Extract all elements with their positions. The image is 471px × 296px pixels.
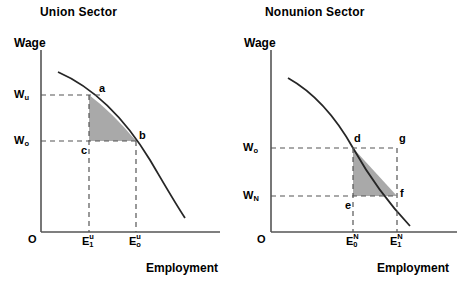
figure-canvas: Union Sector Wage Employment O Wu Wo Eu1… xyxy=(0,0,471,296)
panel-nonunion-sector: Nonunion Sector Wage Employment O Wo WN … xyxy=(235,0,471,296)
shaded-triangle-def xyxy=(353,148,397,196)
panel-union-sector: Union Sector Wage Employment O Wu Wo Eu1… xyxy=(0,0,236,296)
union-plot-svg xyxy=(0,0,236,296)
labor-demand-curve-union xyxy=(58,72,185,218)
shaded-region-union xyxy=(89,95,136,141)
labor-demand-curve-nonunion xyxy=(288,78,410,226)
nonunion-plot-svg xyxy=(235,0,471,296)
